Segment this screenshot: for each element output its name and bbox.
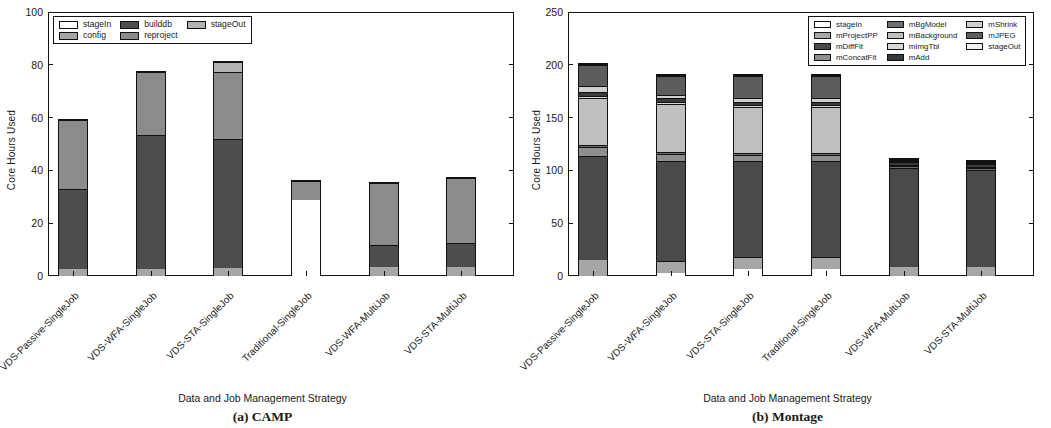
legend-item: mAdd — [887, 53, 958, 62]
bar-segment-mjpeg — [812, 76, 840, 98]
x-tick-label: VDS-STA-SingleJob — [663, 290, 756, 383]
y-tick-label: 200 — [534, 59, 563, 71]
y-tick-mark — [568, 117, 573, 118]
bar-segment-builddb — [59, 189, 87, 269]
y-tick-mark — [1029, 64, 1034, 65]
x-tick-label: VDS-WFA-MultiJob — [819, 290, 912, 383]
legend-item: stageOut — [187, 20, 246, 29]
bar-segment-reproject — [447, 178, 475, 243]
x-axis-title-montage: Data and Job Management Strategy — [525, 392, 1050, 404]
x-tick-mark — [981, 271, 982, 276]
bar-segment-mjpeg — [657, 76, 685, 95]
stacked-bar — [578, 63, 608, 276]
stacked-bar — [291, 180, 321, 276]
legend-item: mImgTbl — [887, 42, 958, 51]
legend-swatch-stageout — [187, 21, 206, 29]
bar-segment-reproject — [370, 183, 398, 244]
stacked-bar — [369, 182, 399, 276]
legend-label: mShrink — [988, 20, 1017, 29]
legend-swatch-stageout — [966, 43, 983, 51]
stacked-bar — [136, 71, 166, 276]
legend-label: config — [83, 31, 106, 40]
legend-swatch-mjpeg — [966, 32, 983, 40]
y-tick-mark — [509, 117, 514, 118]
bar-segment-mprojectpp — [734, 257, 762, 269]
legend-swatch-mbackground — [887, 32, 904, 40]
legend-item: builddb — [120, 20, 177, 29]
x-tick-mark — [461, 271, 462, 276]
legend-item: reproject — [120, 31, 177, 40]
legend-label: stageOut — [988, 42, 1020, 51]
plot-wrapper-montage: Core Hours Used 050100150200250 stageInm… — [525, 0, 1050, 300]
bar-segment-reproject — [137, 72, 165, 135]
legend-item: stageOut — [966, 42, 1020, 51]
y-tick-label: 50 — [534, 217, 563, 229]
y-tick-label: 250 — [534, 6, 563, 18]
y-tick-mark — [48, 170, 53, 171]
x-tick-mark — [73, 271, 74, 276]
x-tick-mark — [593, 271, 594, 276]
legend-swatch-mshrink — [966, 21, 983, 29]
legend-swatch-madd — [887, 54, 904, 62]
legend-item: stageIn — [814, 20, 878, 29]
bar-segment-mbackground — [812, 107, 840, 153]
y-tick-label: 20 — [14, 217, 43, 229]
x-tick-label: VDS-STA-MultiJob — [376, 290, 469, 383]
bar-segment-builddb — [370, 245, 398, 267]
bar-segment-mbackground — [657, 104, 685, 152]
y-tick-mark — [48, 223, 53, 224]
legend-label: mAdd — [909, 53, 930, 62]
legend-item: mBackground — [887, 31, 958, 40]
y-tick-mark — [509, 223, 514, 224]
bar-segment-mdifffit — [812, 161, 840, 257]
bar-segment-mjpeg — [734, 76, 762, 98]
y-tick-mark — [48, 117, 53, 118]
x-tick-label: Traditional-SingleJob — [741, 290, 834, 383]
x-tick-mark — [228, 271, 229, 276]
bar-segment-mdifffit — [579, 156, 607, 260]
y-tick-label: 100 — [534, 164, 563, 176]
legend-item: mShrink — [966, 20, 1020, 29]
stacked-bar — [966, 160, 996, 276]
x-tick-label: VDS-WFA-MultiJob — [299, 290, 392, 383]
stacked-bar — [213, 61, 243, 276]
y-tick-label: 150 — [534, 112, 563, 124]
legend-swatch-mconcatfit — [814, 54, 831, 62]
legend-item: stageIn — [59, 20, 111, 29]
x-tick-mark — [748, 271, 749, 276]
bar-segment-mdifffit — [890, 168, 918, 267]
bar-segment-mconcatfit — [579, 147, 607, 156]
panel-caption-camp: (a) CAMP — [0, 409, 525, 425]
legend-swatch-reproject — [120, 32, 139, 40]
legend-item: mConcatFit — [814, 53, 878, 62]
x-axis-title-camp: Data and Job Management Strategy — [0, 392, 525, 404]
legend-label: mProjectPP — [836, 31, 878, 40]
x-tick-labels-camp: VDS-Passive-SingleJobVDS-WFA-SingleJobVD… — [0, 286, 525, 406]
bar-segment-reproject — [214, 72, 242, 139]
x-tick-mark — [306, 271, 307, 276]
bar-segment-mdifffit — [734, 161, 762, 257]
legend-label: reproject — [144, 31, 177, 40]
y-tick-label: 100 — [14, 6, 43, 18]
x-tick-label: VDS-Passive-SingleJob — [0, 290, 81, 383]
bar-segment-mdifffit — [967, 170, 995, 267]
legend-label: mBgModel — [909, 20, 947, 29]
legend-item: config — [59, 31, 111, 40]
legend-label: builddb — [144, 20, 172, 29]
legend-label: stageIn — [83, 20, 111, 29]
bar-segment-stageout — [214, 62, 242, 73]
bar-segment-stagein — [292, 200, 320, 276]
legend-label: stageIn — [836, 20, 862, 29]
x-tick-mark — [671, 271, 672, 276]
x-tick-labels-montage: VDS-Passive-SingleJobVDS-WFA-SingleJobVD… — [525, 286, 1050, 406]
bar-segment-mdifffit — [657, 161, 685, 261]
y-tick-mark — [509, 170, 514, 171]
legend-label: mImgTbl — [909, 42, 940, 51]
bar-segment-builddb — [214, 139, 242, 268]
figure-row: Core Hours Used 020406080100 stageInbuil… — [0, 0, 1051, 428]
y-tick-mark — [568, 64, 573, 65]
stacked-bar — [811, 74, 841, 276]
legend-swatch-mimgtbl — [887, 43, 904, 51]
legend-camp: stageInbuilddbstageOutconfigreproject — [53, 16, 252, 44]
stacked-bar — [889, 158, 919, 276]
